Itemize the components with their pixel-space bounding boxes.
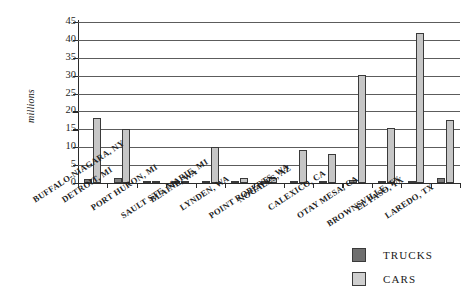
x-axis-tick [284, 183, 285, 188]
x-axis-tick [401, 183, 402, 188]
x-axis-tick [431, 183, 432, 188]
bar-cars-1 [122, 129, 130, 183]
gridline [78, 58, 460, 59]
bar-trucks-2 [143, 181, 151, 184]
x-axis-tick [225, 183, 226, 188]
y-axis-tick-label: 45 [42, 16, 76, 27]
y-axis-tick-label: 5 [42, 159, 76, 170]
legend-label-trucks: TRUCKS [383, 249, 433, 261]
y-axis-tick-label: 25 [42, 88, 76, 99]
x-axis-tick [78, 183, 79, 188]
legend-label-cars: CARS [383, 273, 416, 285]
bar-cars-5 [240, 178, 248, 183]
legend-item-trucks: TRUCKS [352, 243, 433, 267]
y-axis-tick-label: 20 [42, 105, 76, 116]
x-axis-tick [166, 183, 167, 188]
legend-swatch-trucks [352, 248, 366, 262]
y-axis-tick-label: 15 [42, 123, 76, 134]
y-axis-tick-label: 40 [42, 34, 76, 45]
legend-item-cars: CARS [352, 267, 433, 291]
gridline [78, 147, 460, 148]
bar-trucks-11 [408, 181, 416, 184]
gridline [78, 22, 460, 23]
gridline [78, 165, 460, 166]
bar-chart: millions 051015202530354045 BUFFALO-NIAG… [0, 0, 476, 297]
bar-cars-12 [446, 120, 454, 183]
x-axis-tick [107, 183, 108, 188]
gridline [78, 40, 460, 41]
gridline [78, 94, 460, 95]
gridline [78, 76, 460, 77]
bar-trucks-5 [231, 181, 239, 183]
bar-cars-9 [358, 75, 366, 183]
legend-swatch-cars [352, 272, 366, 286]
plot-area: 051015202530354045 [78, 22, 460, 183]
x-axis-tick [342, 183, 343, 188]
bar-trucks-8 [319, 181, 327, 183]
y-axis-tick-label: 10 [42, 141, 76, 152]
x-axis-tick [460, 183, 461, 188]
bar-cars-11 [416, 33, 424, 183]
x-axis-tick [196, 183, 197, 188]
x-axis-tick [254, 183, 255, 188]
bar-cars-8 [328, 154, 336, 183]
x-axis-tick [313, 183, 314, 188]
bar-trucks-12 [437, 178, 445, 183]
gridline [78, 129, 460, 130]
y-axis-tick-label: 30 [42, 70, 76, 81]
x-axis-tick [372, 183, 373, 188]
gridline [78, 111, 460, 112]
chart-legend: TRUCKS CARS [352, 243, 433, 291]
bar-cars-2 [152, 181, 160, 183]
y-axis-tick-label: 35 [42, 52, 76, 63]
x-axis-tick [137, 183, 138, 188]
